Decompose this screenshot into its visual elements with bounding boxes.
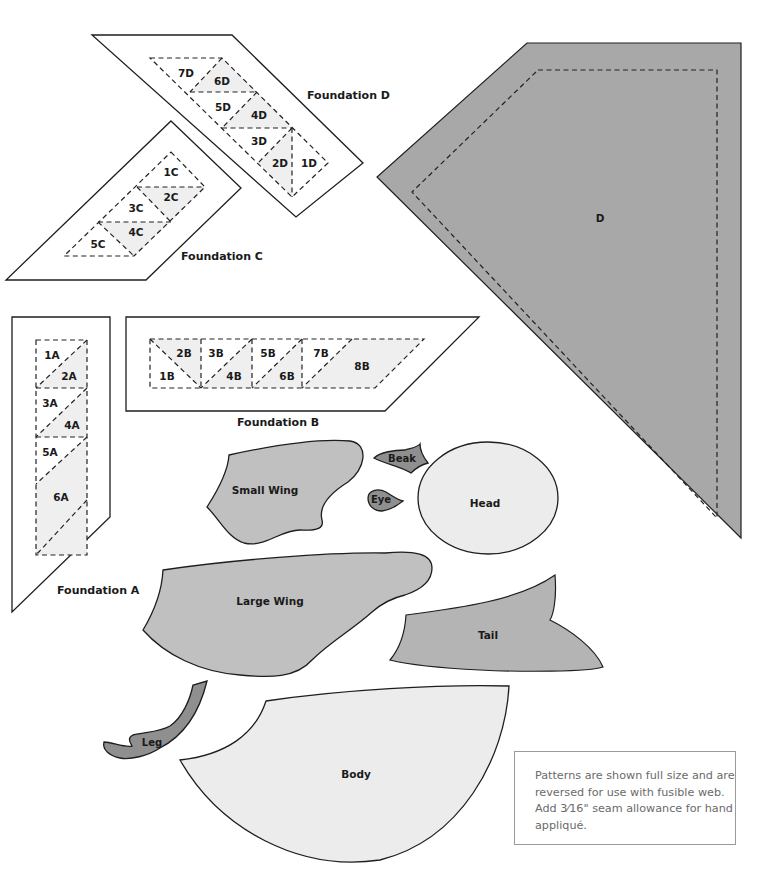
- eye-label: Eye: [371, 494, 391, 505]
- segment-2c: 2C: [163, 191, 178, 203]
- segment-7d: 7D: [178, 67, 194, 79]
- segment-3c: 3C: [128, 202, 143, 214]
- segment-4d: 4D: [251, 109, 267, 121]
- segment-7b: 7B: [313, 347, 328, 359]
- beak: Beak: [374, 444, 428, 473]
- segment-5c: 5C: [90, 238, 105, 250]
- segment-3d: 3D: [251, 135, 267, 147]
- segment-3b: 3B: [208, 347, 223, 359]
- segment-4b: 4B: [226, 370, 241, 382]
- small-wing: Small Wing: [207, 440, 363, 544]
- segment-6a: 6A: [53, 491, 69, 503]
- leg-label: Leg: [142, 737, 162, 748]
- segment-4c: 4C: [128, 226, 143, 238]
- foundation-b: 2B 1B 3B 4B 5B 6B 7B 8B Foundation B: [126, 317, 479, 429]
- segment-1c: 1C: [163, 166, 178, 178]
- piece-d-label: D: [596, 212, 605, 224]
- head-label: Head: [470, 497, 501, 509]
- instructions-text: Patterns are shown full size and are rev…: [535, 769, 735, 832]
- segment-5a: 5A: [42, 446, 58, 458]
- segment-3a: 3A: [42, 397, 58, 409]
- foundation-b-caption: Foundation B: [237, 416, 319, 429]
- instructions-note: Patterns are shown full size and are rev…: [514, 751, 736, 845]
- segment-5b: 5B: [260, 347, 275, 359]
- segment-8b: 8B: [354, 360, 369, 372]
- foundation-a-caption: Foundation A: [57, 584, 140, 597]
- segment-6b: 6B: [279, 370, 294, 382]
- segment-2b: 2B: [176, 347, 191, 359]
- foundation-c-caption: Foundation C: [181, 250, 263, 263]
- segment-1d: 1D: [301, 157, 317, 169]
- segment-1b: 1B: [159, 370, 174, 382]
- large-wing: Large Wing: [143, 552, 432, 676]
- small-wing-label: Small Wing: [232, 484, 299, 496]
- piece-d: D: [377, 43, 741, 538]
- segment-2a: 2A: [61, 370, 77, 382]
- segment-6d: 6D: [214, 75, 230, 87]
- leg: Leg: [104, 681, 207, 759]
- tail: Tail: [390, 575, 603, 671]
- segment-2d: 2D: [272, 157, 288, 169]
- tail-label: Tail: [478, 629, 498, 641]
- large-wing-label: Large Wing: [236, 595, 303, 607]
- beak-label: Beak: [388, 453, 416, 464]
- body: Body: [180, 686, 509, 862]
- foundation-a: 1A 2A 3A 4A 5A 6A Foundation A: [12, 317, 140, 612]
- head: Head: [418, 442, 558, 554]
- segment-4a: 4A: [64, 419, 80, 431]
- segment-5d: 5D: [215, 101, 231, 113]
- foundation-d-caption: Foundation D: [307, 89, 390, 102]
- eye: Eye: [368, 490, 403, 511]
- body-label: Body: [341, 768, 371, 780]
- segment-1a: 1A: [44, 349, 60, 361]
